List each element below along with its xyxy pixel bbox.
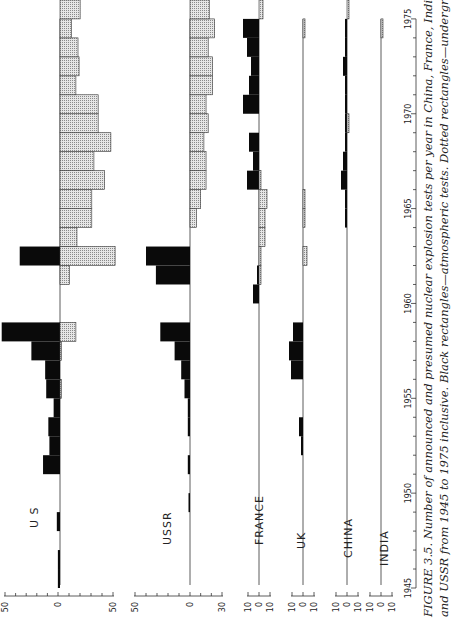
atmospheric-bar <box>253 284 259 303</box>
panel-india: 10010INDIA <box>366 19 397 612</box>
underground-bar <box>190 114 208 133</box>
atmospheric-bar <box>343 152 347 171</box>
underground-bar <box>259 228 265 247</box>
underground-bar <box>60 379 62 398</box>
atmospheric-bar <box>175 341 190 360</box>
atmospheric-bar <box>243 19 259 38</box>
panel-ussr: 50030USSR <box>131 0 227 612</box>
atmospheric-bar <box>253 152 259 171</box>
axis-tick-label: 30 <box>218 602 227 612</box>
underground-bar <box>381 19 383 38</box>
atmospheric-bar <box>247 171 259 190</box>
underground-bar <box>190 57 212 76</box>
atmospheric-bar <box>54 398 60 417</box>
atmospheric-bar <box>345 38 347 57</box>
panel-china: 10010CHINA <box>332 0 363 612</box>
country-label: U S <box>28 506 41 528</box>
atmospheric-bar <box>243 95 259 114</box>
country-label: USSR <box>161 511 174 545</box>
underground-bar <box>60 57 79 76</box>
axis-tick-label: 0 <box>299 602 308 607</box>
year-tick-label: 1955 <box>404 388 413 408</box>
underground-bar <box>60 95 98 114</box>
underground-bar <box>60 341 62 360</box>
atmospheric-bar <box>345 19 347 38</box>
panel-france: 10010FRANCE <box>243 0 275 612</box>
axis-tick-label: 50 <box>1 602 10 612</box>
atmospheric-bar <box>20 247 60 266</box>
axis-tick-label: 50 <box>109 602 118 612</box>
atmospheric-bar <box>160 322 190 341</box>
axis-tick-label: 10 <box>288 602 297 612</box>
underground-bar <box>60 0 80 19</box>
axis-tick-label: 0 <box>186 602 195 607</box>
underground-bar <box>60 266 70 285</box>
country-label: CHINA <box>342 518 355 558</box>
figure-caption-line-1: FIGURE 3.5. Number of announced and pres… <box>421 0 435 617</box>
year-tick-label: 1960 <box>404 293 413 313</box>
atmospheric-bar <box>189 493 191 512</box>
atmospheric-bar <box>58 550 60 569</box>
panel-uk: 10010UK <box>288 19 319 612</box>
axis-tick-label: 0 <box>54 602 63 607</box>
atmospheric-bar <box>249 76 259 95</box>
axis-tick-label: 50 <box>131 602 140 612</box>
year-tick-label: 1965 <box>404 198 413 218</box>
country-label: FRANCE <box>253 495 266 545</box>
year-axis: 1945195019551960196519701975 <box>404 9 416 598</box>
atmospheric-bar <box>345 190 347 209</box>
atmospheric-bar <box>31 341 60 360</box>
atmospheric-bar <box>345 209 347 228</box>
atmospheric-bar <box>341 171 347 190</box>
underground-bar <box>303 19 305 38</box>
underground-bar <box>190 171 206 190</box>
underground-bar <box>190 152 206 171</box>
underground-bar <box>303 247 307 266</box>
atmospheric-bar <box>188 398 190 417</box>
atmospheric-bar <box>291 360 303 379</box>
atmospheric-bar <box>188 417 190 436</box>
atmospheric-bar <box>345 133 347 152</box>
atmospheric-bar <box>345 95 347 114</box>
atmospheric-bar <box>299 417 303 436</box>
country-label: INDIA <box>378 530 391 566</box>
underground-bar <box>259 171 261 190</box>
atmospheric-bar <box>181 360 190 379</box>
year-tick-label: 1945 <box>404 578 413 598</box>
atmospheric-bar <box>49 436 60 455</box>
underground-bar <box>60 76 76 95</box>
atmospheric-bar <box>345 76 347 95</box>
underground-bar <box>60 247 115 266</box>
underground-bar <box>347 114 349 133</box>
underground-bar <box>303 209 305 228</box>
axis-tick-label: 10 <box>388 602 397 612</box>
atmospheric-bar <box>48 417 60 436</box>
axis-tick-label: 10 <box>332 602 341 612</box>
underground-bar <box>60 38 78 57</box>
panel-us: 50050U S <box>1 0 118 612</box>
atmospheric-bar <box>43 455 60 474</box>
axis-tick-label: 10 <box>366 602 375 612</box>
atmospheric-bar <box>301 436 303 455</box>
underground-bar <box>60 171 105 190</box>
underground-bar <box>259 0 263 19</box>
atmospheric-bar <box>2 322 60 341</box>
atmospheric-bar <box>156 266 190 285</box>
underground-bar <box>190 19 215 38</box>
figure-caption-line-2: and USSR from 1945 to 1975 inclusive. Bl… <box>437 0 451 617</box>
axis-tick-label: 10 <box>244 602 253 612</box>
axis-tick-label: 0 <box>255 602 264 607</box>
atmospheric-bar <box>146 247 190 266</box>
underground-bar <box>60 114 98 133</box>
underground-bar <box>60 228 77 247</box>
atmospheric-bar <box>249 133 259 152</box>
underground-bar <box>190 38 208 57</box>
underground-bar <box>259 209 265 228</box>
atmospheric-bar <box>45 360 60 379</box>
atmospheric-bar <box>343 57 347 76</box>
underground-bar <box>190 209 196 228</box>
underground-bar <box>190 0 209 19</box>
atmospheric-bar <box>247 38 259 57</box>
year-tick-label: 1950 <box>404 483 413 503</box>
atmospheric-bar <box>251 57 259 76</box>
